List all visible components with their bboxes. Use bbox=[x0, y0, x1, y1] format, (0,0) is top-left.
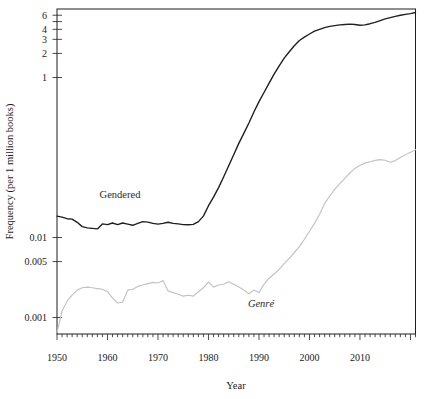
genre-line bbox=[57, 150, 416, 333]
x-tick-label: 2000 bbox=[299, 352, 319, 363]
x-tick-label: 1950 bbox=[47, 352, 67, 363]
y-tick-label: 1 bbox=[42, 72, 47, 83]
figure-container: 1950196019701980199020002010643210.010.0… bbox=[0, 0, 425, 399]
gendered-series-label: Gendered bbox=[100, 189, 142, 200]
y-tick-label: 2 bbox=[42, 48, 47, 59]
y-tick-label: 0.005 bbox=[25, 256, 48, 267]
x-tick-label: 1960 bbox=[97, 352, 117, 363]
x-axis-title: Year bbox=[226, 380, 246, 391]
y-tick-label: 0.01 bbox=[30, 232, 48, 243]
genre-series-label: Genré bbox=[248, 298, 276, 309]
line-chart: 1950196019701980199020002010643210.010.0… bbox=[0, 0, 425, 399]
x-tick-label: 2010 bbox=[350, 352, 370, 363]
y-axis-title: Frequency (per 1 million books) bbox=[4, 103, 16, 239]
y-tick-label: 6 bbox=[42, 10, 47, 21]
x-tick-label: 1970 bbox=[148, 352, 168, 363]
x-tick-label: 1980 bbox=[198, 352, 218, 363]
y-tick-label: 3 bbox=[42, 34, 47, 45]
y-tick-label: 0.001 bbox=[25, 312, 48, 323]
x-tick-label: 1990 bbox=[249, 352, 269, 363]
